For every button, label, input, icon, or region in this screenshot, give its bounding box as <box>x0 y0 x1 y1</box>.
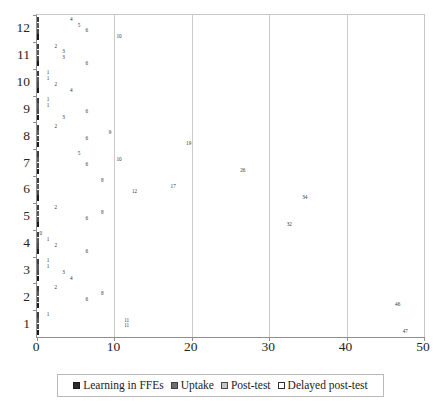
bar: 1 <box>37 71 45 76</box>
bar: 8 <box>37 291 99 296</box>
bar: 1 <box>37 312 45 317</box>
bar: 2 <box>37 286 52 291</box>
bar: 6 <box>37 249 83 254</box>
bar: 6 <box>37 163 83 168</box>
legend-item: Uptake <box>171 380 214 392</box>
bar: 1 <box>37 264 45 269</box>
bar-fill <box>37 243 39 248</box>
bar-value-label: 2 <box>54 44 57 49</box>
bar-fill <box>37 34 39 39</box>
bar-value-label: 8 <box>101 211 104 216</box>
bar: 1 <box>37 77 45 82</box>
bar-group: 101124 <box>37 69 424 96</box>
bar-group: 7510626 <box>37 149 424 176</box>
bar: 11 <box>37 318 122 323</box>
bar: 4 <box>37 17 68 22</box>
bar-group: 40126 <box>37 230 424 257</box>
bar-value-label: 2 <box>54 243 57 248</box>
bar-fill <box>37 205 39 210</box>
bar-fill <box>37 286 39 291</box>
bar-value-label: 1 <box>47 77 50 82</box>
y-axis-category-label: 5 <box>23 209 30 223</box>
bar: 32 <box>37 222 285 227</box>
bar-fill <box>37 303 39 308</box>
y-axis-category-label: 3 <box>23 263 30 277</box>
bar-value-label: 8 <box>101 178 104 183</box>
bar-value-label: 3 <box>62 115 65 120</box>
bar-fill <box>37 270 39 275</box>
bar-fill <box>37 169 39 174</box>
bar: 2 <box>37 125 52 130</box>
bar: 10 <box>37 157 114 162</box>
y-axis-category-label: 9 <box>23 102 30 116</box>
bar-fill <box>37 61 39 66</box>
bar-value-label: 2 <box>54 205 57 210</box>
bar: 2 <box>37 243 52 248</box>
bar-value-label: 6 <box>85 109 88 114</box>
bar-fill <box>37 23 39 28</box>
bar-value-label: 0 <box>40 232 43 237</box>
legend-item: Post-test <box>221 380 271 392</box>
bar: 11 <box>37 324 122 329</box>
bar-fill <box>37 163 39 168</box>
bar-fill <box>37 318 39 323</box>
bar-value-label: 8 <box>101 291 104 296</box>
y-axis-category-label: 11 <box>17 48 30 62</box>
bar: 1 <box>37 259 45 264</box>
bar: 1 <box>37 238 45 243</box>
bar-fill <box>37 56 39 61</box>
bar-fill <box>37 17 39 22</box>
bar: 26 <box>37 169 238 174</box>
x-axis-tick-labels: 01020304050 <box>36 340 423 358</box>
bar: 34 <box>37 195 300 200</box>
bar-fill <box>37 71 39 76</box>
bar: 1 <box>37 103 45 108</box>
legend-item-label: Uptake <box>181 380 214 392</box>
bar-fill <box>37 222 39 227</box>
bar-value-label: 19 <box>186 142 191 147</box>
bar-fill <box>37 136 39 141</box>
y-axis-category-label: 7 <box>23 156 30 170</box>
bar-group: 11111147 <box>37 310 424 337</box>
bar-value-label: 46 <box>395 303 400 308</box>
bar-fill <box>37 190 39 195</box>
bar-fill <box>37 259 39 264</box>
bar-fill <box>37 312 39 317</box>
bar: 3 <box>37 115 60 120</box>
bar: 2 <box>37 44 52 49</box>
bar-value-label: 2 <box>54 286 57 291</box>
bar-value-label: 6 <box>85 163 88 168</box>
bar-value-label: 34 <box>302 195 307 200</box>
legend-swatch-white <box>278 382 285 389</box>
bar-value-label: 4 <box>70 276 73 281</box>
bar-group: 68171234 <box>37 176 424 203</box>
bar: 3 <box>37 270 60 275</box>
bar-fill <box>37 109 39 114</box>
bar: 6 <box>37 109 83 114</box>
bar-value-label: 6 <box>85 217 88 222</box>
y-axis-category-label: 4 <box>23 236 30 250</box>
legend-item-label: Delayed post-test <box>288 380 368 392</box>
legend-item: Learning in FFEs <box>73 380 164 392</box>
bar-value-label: 26 <box>240 169 245 174</box>
bar: 5 <box>37 151 76 156</box>
bar-value-label: 6 <box>85 136 88 141</box>
bar: 5 <box>37 23 76 28</box>
bar-group: 228646 <box>37 283 424 310</box>
bar-fill <box>37 50 39 55</box>
bar-group: 829619 <box>37 122 424 149</box>
bar: 8 <box>37 211 99 216</box>
bar: 3 <box>37 56 60 61</box>
y-axis-category-label: 6 <box>23 183 30 197</box>
bar-value-label: 6 <box>85 61 88 66</box>
bar-value-label: 5 <box>78 151 81 156</box>
bar: 8 <box>37 178 99 183</box>
bar-fill <box>37 151 39 156</box>
x-axis-tick-label: 30 <box>261 340 275 354</box>
legend-swatch-light-gray <box>221 382 228 389</box>
y-axis-category-label: 10 <box>17 75 31 89</box>
bar-fill <box>37 77 39 82</box>
bar-value-label: 1 <box>47 264 50 269</box>
bar-fill <box>37 88 39 93</box>
bar-fill <box>37 217 39 222</box>
